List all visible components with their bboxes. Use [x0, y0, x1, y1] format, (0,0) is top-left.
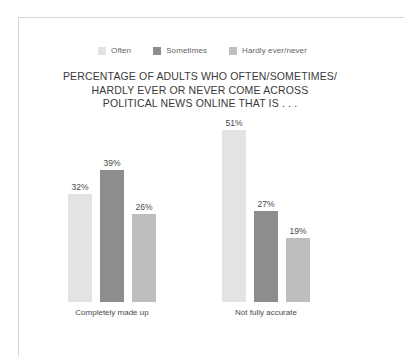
bar-hardly-ever-never-completely-made-up[interactable]: 26% — [132, 118, 156, 302]
category-label-completely-made-up: Completely made up — [64, 308, 160, 317]
bar-group-completely-made-up: 32% 39% 26% Completely made up — [64, 118, 160, 302]
bar-rect — [254, 211, 278, 302]
bar-value-label: 26% — [135, 202, 152, 212]
bar-group-bars: 32% 39% 26% — [64, 118, 160, 302]
bar-rect — [100, 170, 124, 302]
bar-rect — [132, 214, 156, 302]
bar-often-not-fully-accurate[interactable]: 51% — [222, 118, 246, 302]
legend-swatch-hardly-ever-never — [229, 47, 237, 55]
legend-item-hardly-ever-never[interactable]: Hardly ever/never — [229, 46, 307, 55]
legend-label-hardly-ever-never: Hardly ever/never — [242, 46, 307, 55]
chart-title-line-3: POLITICAL NEWS ONLINE THAT IS . . . — [50, 97, 350, 111]
bar-rect — [286, 238, 310, 302]
bar-value-label: 19% — [289, 226, 306, 236]
legend-item-often[interactable]: Often — [98, 46, 131, 55]
chart-legend: Often Sometimes Hardly ever/never — [0, 46, 405, 55]
bar-value-label: 32% — [71, 182, 88, 192]
bar-group-not-fully-accurate: 51% 27% 19% Not fully accurate — [218, 118, 314, 302]
bar-value-label: 27% — [257, 199, 274, 209]
legend-label-sometimes: Sometimes — [166, 46, 207, 55]
category-label-not-fully-accurate: Not fully accurate — [218, 308, 314, 317]
bar-rect — [68, 194, 92, 302]
bar-group-bars: 51% 27% 19% — [218, 118, 314, 302]
chart-title: PERCENTAGE OF ADULTS WHO OFTEN/SOMETIMES… — [50, 70, 350, 111]
chart-canvas: Often Sometimes Hardly ever/never PERCEN… — [0, 0, 405, 357]
bar-hardly-ever-never-not-fully-accurate[interactable]: 19% — [286, 118, 310, 302]
chart-plot-area: 32% 39% 26% Completely made up 51% — [50, 118, 358, 302]
bar-rect — [222, 130, 246, 302]
chart-title-line-1: PERCENTAGE OF ADULTS WHO OFTEN/SOMETIMES… — [50, 70, 350, 84]
legend-swatch-sometimes — [153, 47, 161, 55]
bar-value-label: 39% — [103, 158, 120, 168]
bar-sometimes-completely-made-up[interactable]: 39% — [100, 118, 124, 302]
bar-value-label: 51% — [225, 118, 242, 128]
legend-swatch-often — [98, 47, 106, 55]
legend-item-sometimes[interactable]: Sometimes — [153, 46, 207, 55]
bar-often-completely-made-up[interactable]: 32% — [68, 118, 92, 302]
chart-title-line-2: HARDLY EVER OR NEVER COME ACROSS — [50, 84, 350, 98]
legend-label-often: Often — [111, 46, 131, 55]
bar-sometimes-not-fully-accurate[interactable]: 27% — [254, 118, 278, 302]
